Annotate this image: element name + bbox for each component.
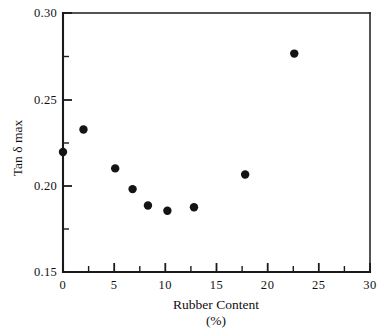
y-tick-labels: 0.30 0.25 0.20 0.15 <box>34 6 57 279</box>
data-point-marker <box>111 164 119 172</box>
y-tick-label: 0.20 <box>34 179 57 193</box>
data-point-marker <box>59 148 67 156</box>
x-axis-title: Rubber Content <box>173 297 259 312</box>
data-point-marker <box>79 125 87 133</box>
scatter-plot-figure: 0.30 0.25 0.20 0.15 0 5 10 15 20 25 30 R… <box>0 0 391 332</box>
data-point-marker <box>190 203 198 211</box>
x-tick-label: 20 <box>261 278 275 292</box>
y-tick-label: 0.25 <box>34 93 57 107</box>
y-tick-label: 0.30 <box>34 6 57 20</box>
x-tick-label: 25 <box>312 278 326 292</box>
data-point-marker <box>128 185 136 193</box>
x-tick-label: 10 <box>158 278 172 292</box>
x-tick-label: 0 <box>60 278 67 292</box>
y-tick-label: 0.15 <box>34 265 57 279</box>
plot-frame <box>63 13 370 272</box>
plot-canvas: 0.30 0.25 0.20 0.15 0 5 10 15 20 25 30 R… <box>0 0 391 332</box>
data-point-marker <box>163 207 171 215</box>
x-tick-labels: 0 5 10 15 20 25 30 <box>60 278 377 292</box>
data-point-marker <box>241 170 249 178</box>
x-axis-units-label: (%) <box>206 313 226 328</box>
x-tick-label: 15 <box>210 278 224 292</box>
x-axis-ticks <box>63 263 370 272</box>
data-point-series <box>59 49 299 215</box>
data-point-marker <box>290 49 298 57</box>
y-axis-ticks <box>63 13 72 272</box>
x-tick-label: 30 <box>363 278 377 292</box>
x-tick-label: 5 <box>111 278 118 292</box>
y-axis-title: Tan δ max <box>10 120 25 177</box>
y-axis-title-group: Tan δ max <box>10 120 25 177</box>
data-point-marker <box>144 201 152 209</box>
